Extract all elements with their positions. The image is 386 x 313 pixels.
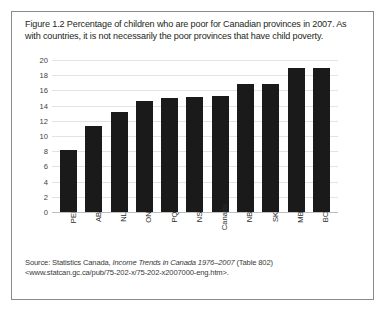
bar-bc	[313, 68, 330, 212]
x-axis-label-pei: PEI	[69, 211, 78, 223]
plot-area: 20181614121086420 PEIABNLONPQNSCanadaNBS…	[52, 60, 338, 212]
y-axis-tick-4: 4	[44, 177, 48, 186]
bar-canada	[212, 96, 229, 212]
x-axis-label-nl: NL	[119, 212, 128, 222]
x-axis-label-nb: NB	[245, 212, 254, 223]
source-prefix: Source: Statistics Canada,	[25, 258, 113, 267]
bar-ab	[85, 126, 102, 212]
bar-slot: PEI	[56, 60, 81, 212]
x-axis-label-ab: AB	[94, 212, 103, 222]
y-axis-tick-10: 10	[40, 132, 48, 141]
x-axis-label-canada: Canada	[220, 204, 229, 231]
x-axis-label-sk: SK	[271, 212, 280, 222]
bar-slot: NS	[182, 60, 207, 212]
y-axis-tick-6: 6	[44, 162, 48, 171]
bar-slot: ON	[132, 60, 157, 212]
y-axis-tick-14: 14	[40, 101, 48, 110]
bar-pq	[161, 98, 178, 212]
bar-ns	[186, 97, 203, 212]
x-axis-label-on: ON	[144, 211, 153, 222]
y-axis-tick-20: 20	[40, 56, 48, 65]
bar-nl	[111, 112, 128, 212]
figure-frame: Figure 1.2 Percentage of children who ar…	[11, 11, 374, 300]
source-title: Income Trends in Canada 1976–2007	[113, 258, 235, 267]
x-axis-label-ns: NS	[195, 212, 204, 223]
bar-on	[136, 101, 153, 212]
bar-sk	[262, 84, 279, 212]
x-axis-label-bc: BC	[321, 212, 330, 223]
bar-nb	[237, 84, 254, 212]
y-axis-tick-12: 12	[40, 116, 48, 125]
y-axis-tick-2: 2	[44, 192, 48, 201]
x-axis-label-mb: MB	[296, 211, 305, 222]
y-axis-tick-8: 8	[44, 147, 48, 156]
bar-slot: SK	[258, 60, 283, 212]
x-axis-label-pq: PQ	[170, 212, 179, 223]
bar-series: PEIABNLONPQNSCanadaNBSKMBBC	[52, 60, 338, 212]
bar-slot: NL	[107, 60, 132, 212]
source-note: Source: Statistics Canada, Income Trends…	[25, 258, 364, 279]
y-axis-tick-18: 18	[40, 71, 48, 80]
bar-slot: AB	[81, 60, 106, 212]
bar-chart: 20181614121086420 PEIABNLONPQNSCanadaNBS…	[25, 54, 362, 250]
bar-mb	[288, 68, 305, 212]
bar-slot: MB	[283, 60, 308, 212]
bar-slot: NB	[233, 60, 258, 212]
bar-pei	[60, 150, 77, 212]
figure-caption: Figure 1.2 Percentage of children who ar…	[25, 18, 362, 42]
y-axis-tick-0: 0	[44, 208, 48, 217]
y-axis-tick-16: 16	[40, 86, 48, 95]
bar-slot: PQ	[157, 60, 182, 212]
bar-slot: BC	[309, 60, 334, 212]
bar-slot: Canada	[208, 60, 233, 212]
